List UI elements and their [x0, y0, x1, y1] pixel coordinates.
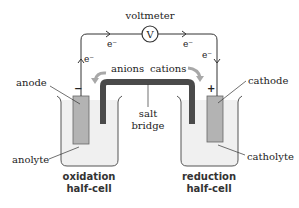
anode-sign: − — [74, 83, 82, 94]
electron-label: e⁻ — [183, 39, 193, 49]
cathode-sign: + — [207, 83, 215, 94]
catholyte-label: catholyte — [247, 151, 294, 162]
anolyte-label: anolyte — [12, 154, 49, 165]
cation-arrow-icon — [196, 76, 204, 82]
anode-label: anode — [16, 77, 47, 88]
cation-arrow-icon — [188, 68, 200, 77]
salt-bridge-label: bridge — [131, 120, 164, 131]
voltmeter-label: voltmeter — [124, 10, 174, 21]
reduction-half-cell-label: reduction — [182, 171, 236, 182]
cathode-electrode — [207, 96, 223, 142]
electron-label: e⁻ — [202, 50, 212, 60]
cathode-leader — [218, 81, 246, 103]
anolyte-solution — [61, 100, 118, 166]
anion-arrow-icon — [91, 78, 99, 84]
electron-label: e⁻ — [84, 54, 94, 64]
reduction-half-cell-label: half-cell — [186, 183, 231, 194]
oxidation-half-cell-label: half-cell — [66, 183, 111, 194]
electron-label: e⁻ — [107, 39, 117, 49]
cations-label: cations — [150, 63, 186, 74]
oxidation-half-cell-label: oxidation — [63, 171, 116, 182]
voltmeter-symbol: V — [145, 29, 154, 40]
cathode-label: cathode — [248, 75, 288, 86]
anode-electrode — [73, 96, 89, 144]
galvanic-cell-diagram: voltmeter V e⁻ e⁻ e⁻ e⁻ anode − cathode … — [0, 0, 299, 208]
salt-bridge-label: salt — [139, 108, 157, 119]
anions-label: anions — [111, 63, 144, 74]
